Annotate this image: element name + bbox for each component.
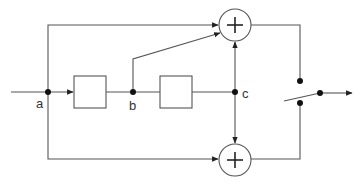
switch-contact-top xyxy=(297,78,303,84)
switch-pivot xyxy=(317,90,323,96)
block-1 xyxy=(74,76,106,108)
label-b: b xyxy=(129,99,136,112)
node-a xyxy=(45,89,51,95)
switch-contact-bottom xyxy=(297,100,303,106)
label-a: a xyxy=(36,97,43,110)
node-b xyxy=(130,89,136,95)
label-c: c xyxy=(242,87,249,100)
block-2 xyxy=(160,76,192,108)
block-diagram xyxy=(0,0,360,188)
adder-bottom xyxy=(219,144,251,176)
node-c xyxy=(232,89,238,95)
switch-lever xyxy=(284,93,320,101)
wire-bottom-adder-switch xyxy=(251,103,300,159)
wire-top-adder-switch xyxy=(251,25,300,81)
adder-top xyxy=(219,9,251,41)
